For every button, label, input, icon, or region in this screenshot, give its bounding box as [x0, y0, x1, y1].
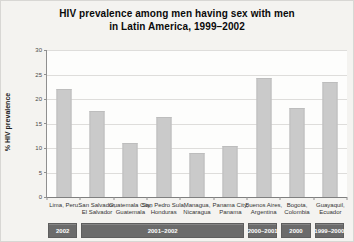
chart-title: HIV prevalence among men having sex with… [1, 8, 353, 33]
x-tick-label-8: Guayaquil,Ecuador [316, 202, 345, 216]
bar-7 [290, 108, 305, 197]
y-tick-label-30: 30 [35, 47, 42, 53]
y-tick-label-10: 10 [35, 145, 42, 151]
bar-2 [123, 143, 138, 197]
chart-title-line1: HIV prevalence among men having sex with… [1, 8, 353, 21]
x-tick-mark-6 [247, 197, 248, 200]
y-tick-mark-20 [44, 99, 47, 100]
bar-6 [256, 78, 271, 197]
bar-4 [190, 153, 205, 197]
period-band-0: 2002 [48, 223, 77, 238]
x-tick-label-6: Buenos Aires,Argentina [245, 202, 282, 216]
x-tick-mark-2 [113, 197, 114, 200]
hiv-prevalence-chart: HIV prevalence among men having sex with… [0, 0, 354, 242]
x-tick-label-0: Lima, Peru [49, 202, 78, 209]
x-tick-label-7: Bogota,Colombia [284, 202, 309, 216]
x-tick-mark-1 [80, 197, 81, 200]
y-tick-mark-5 [44, 172, 47, 173]
x-tick-mark-7 [280, 197, 281, 200]
chart-title-line2: in Latin America, 1999–2002 [1, 21, 353, 34]
y-tick-mark-30 [44, 50, 47, 51]
period-band-4: 1999–2000 [315, 223, 344, 238]
x-tick-mark-5 [213, 197, 214, 200]
plot-area: 051015202530Lima, PeruSan Salvador,El Sa… [46, 50, 347, 198]
x-tick-mark-4 [180, 197, 181, 200]
y-tick-label-25: 25 [35, 72, 42, 78]
x-tick-mark-9 [347, 197, 348, 200]
y-tick-label-0: 0 [39, 194, 42, 200]
y-axis-title: % HIV prevalence [4, 67, 16, 177]
x-tick-mark-3 [147, 197, 148, 200]
bar-3 [156, 117, 171, 197]
y-tick-label-5: 5 [39, 170, 42, 176]
period-band-1: 2001–2002 [81, 223, 244, 238]
x-tick-label-5: Panama City,Panama [213, 202, 249, 216]
gridline-30 [47, 50, 347, 51]
bar-1 [90, 111, 105, 197]
survey-period-bands: 20022001–20022000–200120001999–2000 [46, 223, 346, 238]
x-tick-mark-8 [313, 197, 314, 200]
y-tick-label-15: 15 [35, 121, 42, 127]
x-tick-label-3: San Pedro Sula,Honduras [142, 202, 186, 216]
bar-0 [56, 89, 71, 197]
gridline-25 [47, 75, 347, 76]
y-tick-mark-10 [44, 148, 47, 149]
bar-5 [223, 146, 238, 197]
y-tick-mark-25 [44, 74, 47, 75]
gridline-20 [47, 99, 347, 100]
y-tick-label-20: 20 [35, 96, 42, 102]
period-band-2: 2000–2001 [248, 223, 277, 238]
x-tick-mark-0 [47, 197, 48, 200]
x-tick-label-4: Managua,Nicaragua [183, 202, 210, 216]
y-tick-mark-15 [44, 123, 47, 124]
bar-8 [323, 82, 338, 197]
period-band-3: 2000 [281, 223, 310, 238]
